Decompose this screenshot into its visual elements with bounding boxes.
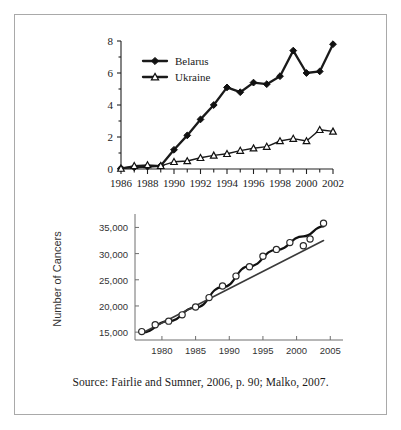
y-tick-label: 25,000 [99,275,128,286]
data-point [233,273,239,279]
data-point [193,304,199,310]
data-point [307,236,313,242]
y-tick-label: 15,000 [99,327,128,338]
figure-frame: BelarusUkraine 0246819861988199019921994… [14,14,387,415]
x-tick-label: 1986 [110,177,133,189]
x-tick-label: 1988 [137,177,160,189]
x-tick-label: 2005 [320,345,341,356]
chart-thyroid-cancer-incidence: BelarusUkraine 0246819861988199019921994… [15,15,388,200]
chart-top-svg: BelarusUkraine 0246819861988199019921994… [15,15,388,200]
data-point [287,240,293,246]
data-point [219,283,225,289]
data-point [179,312,185,318]
x-tick-label: 2002 [322,177,344,189]
legend-label-ukraine: Ukraine [175,71,211,83]
y-tick-label: 0 [108,163,114,175]
y-tick-label: 30,000 [99,249,128,260]
legend-label-belarus: Belarus [175,55,209,67]
bottom-chart-tick-labels: 15,00020,00025,00030,00035,0001980198519… [51,222,341,356]
chart-bottom-svg: 15,00020,00025,00030,00035,0001980198519… [15,200,388,370]
x-tick-label: 1980 [151,345,172,356]
data-point [166,318,172,324]
y-tick-label: 20,000 [99,301,128,312]
x-tick-label: 1992 [190,177,212,189]
bottom-chart-fit-lines [142,226,324,333]
data-point [260,253,266,259]
y-tick-label: 8 [108,35,114,47]
x-tick-label: 1990 [219,345,240,356]
fit-curve [142,226,324,332]
data-point [300,243,306,249]
data-point [246,264,252,270]
chart-number-of-cancers: 15,00020,00025,00030,00035,0001980198519… [15,200,388,370]
y-tick-label: 6 [108,67,114,79]
x-tick-label: 1990 [163,177,186,189]
data-point [320,220,326,226]
x-tick-label: 2000 [286,345,307,356]
y-tick-label: 2 [108,131,114,143]
x-tick-label: 2000 [296,177,319,189]
x-tick-label: 1995 [252,345,273,356]
data-point [139,329,145,335]
data-point [273,246,279,252]
x-tick-label: 1985 [185,345,206,356]
x-tick-label: 1994 [216,177,239,189]
y-axis-title: Number of Cancers [51,231,63,327]
x-tick-label: 1996 [243,177,266,189]
x-tick-label: 1998 [269,177,292,189]
data-point [206,294,212,300]
source-note: Source: Fairlie and Sumner, 2006, p. 90;… [15,376,386,388]
top-chart-legend: BelarusUkraine [143,55,211,83]
y-tick-label: 4 [108,99,114,111]
series-ukraine [118,127,337,172]
y-tick-label: 35,000 [99,222,128,233]
data-point [152,322,158,328]
